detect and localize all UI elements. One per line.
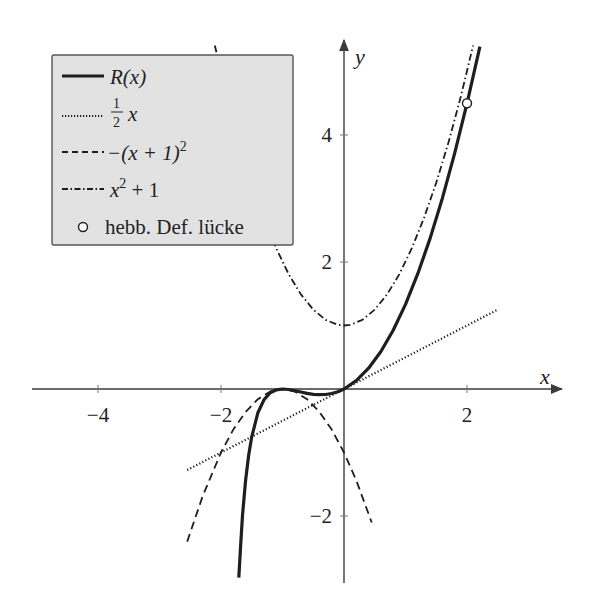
y-tick-label: 4: [322, 123, 333, 147]
legend: R(x) 1 2 x −(x + 1)2 x2 + 1 hebb. Def. l…: [52, 55, 293, 245]
svg-text:−(x + 1)2: −(x + 1)2: [107, 139, 187, 165]
svg-text:R(x): R(x): [109, 65, 146, 89]
y-tick-label: −2: [310, 504, 332, 528]
svg-text:x: x: [127, 102, 138, 126]
plot-markers: [463, 99, 472, 108]
legend-label-half-x: x: [127, 102, 138, 126]
removable-discontinuity-marker: [463, 99, 472, 108]
svg-text:x2 + 1: x2 + 1: [109, 176, 159, 202]
legend-label-neg-square: −(x + 1): [107, 141, 180, 165]
legend-label-parabola-tail: + 1: [126, 178, 159, 202]
x-axis-label: x: [539, 364, 550, 389]
legend-label-hole: hebb. Def. lücke: [105, 215, 244, 239]
legend-frac-num: 1: [113, 96, 120, 111]
y-axis-label: y: [353, 44, 365, 69]
legend-swatch-open-circle: [79, 223, 88, 232]
x-tick-label: 2: [462, 403, 473, 427]
chart: x y −4−22−224 R(x) 1 2 x −(x + 1)2 x2 + …: [0, 0, 589, 608]
legend-frac-den: 2: [113, 115, 120, 130]
y-tick-label: 2: [322, 250, 333, 274]
x-tick-label: −4: [87, 403, 110, 427]
legend-label-parabola-sup: 2: [119, 176, 126, 191]
x-tick-label: −2: [210, 403, 232, 427]
legend-label-neg-square-sup: 2: [180, 139, 187, 154]
legend-label-r: R(x): [109, 65, 146, 89]
